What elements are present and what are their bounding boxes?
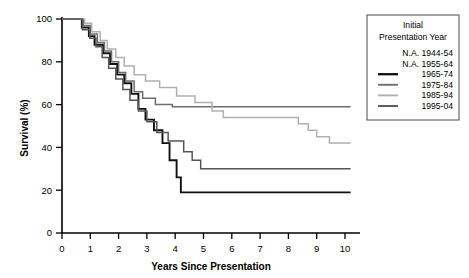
legend-label-1965-74: 1965-74 — [421, 69, 453, 79]
survival-chart-svg: 020406080100 012345678910 Survival (%) Y… — [0, 0, 469, 278]
x-tick-label: 2 — [116, 243, 121, 254]
y-tick-label: 20 — [41, 185, 52, 196]
x-tick-label: 6 — [229, 243, 234, 254]
y-tick-label: 80 — [41, 56, 52, 67]
y-tick-label: 60 — [41, 99, 52, 110]
x-tick-label: 8 — [286, 243, 291, 254]
legend-label-1985-94: 1985-94 — [421, 90, 453, 100]
legend-label-1995-04: 1995-04 — [421, 101, 453, 111]
x-tick-label: 9 — [314, 243, 319, 254]
curve-1995-04 — [62, 19, 351, 169]
legend-label-1975-84: 1975-84 — [421, 80, 453, 90]
x-tick-label: 1 — [88, 243, 93, 254]
legend-title-line2: Presentation Year — [379, 32, 447, 42]
x-axis-title: Years Since Presentation — [151, 261, 271, 272]
x-tick-label: 3 — [144, 243, 149, 254]
y-axis-title: Survival (%) — [19, 99, 30, 156]
x-tick-label: 4 — [173, 243, 178, 254]
curve-1985-94 — [62, 19, 351, 143]
legend-label-n-a-1955-64: N.A. 1955-64 — [402, 59, 453, 69]
survival-chart-figure: 020406080100 012345678910 Survival (%) Y… — [0, 0, 469, 278]
curve-1965-74 — [62, 19, 351, 192]
y-tick-label: 0 — [47, 227, 52, 238]
y-tick-label: 100 — [36, 13, 52, 24]
legend-label-n-a-1944-54: N.A. 1944-54 — [402, 48, 453, 58]
x-axis-ticks: 012345678910 — [59, 233, 350, 254]
x-tick-label: 5 — [201, 243, 206, 254]
survival-curves — [62, 19, 351, 192]
y-tick-label: 40 — [41, 142, 52, 153]
legend-title-line1: Initial — [403, 20, 423, 30]
x-tick-label: 0 — [59, 243, 64, 254]
x-tick-label: 10 — [340, 243, 351, 254]
x-tick-label: 7 — [257, 243, 262, 254]
y-axis-ticks: 020406080100 — [36, 13, 62, 238]
curve-1975-84 — [62, 19, 351, 107]
